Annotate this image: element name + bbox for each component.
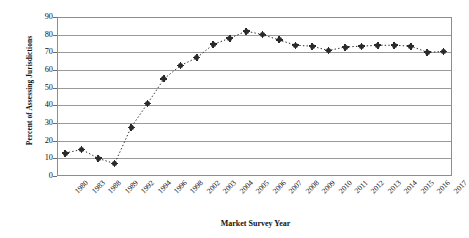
x-axis-tick-label: 2011: [353, 179, 369, 195]
x-axis-tick-label: 2002: [205, 179, 221, 195]
x-axis-tick-label: 2013: [386, 179, 402, 195]
x-axis-tick-label: 2015: [419, 179, 435, 195]
x-axis-tick-label: 2010: [337, 179, 353, 195]
x-axis-title: Market Survey Year: [0, 219, 469, 228]
chart-container: Percent of Assessing Jurisdictions 01020…: [0, 0, 469, 238]
x-axis-tick-label: 1998: [189, 179, 205, 195]
x-axis-tick-label: 1988: [107, 179, 123, 195]
x-axis-tick-label: 1996: [172, 179, 188, 195]
x-axis-tick-group: 1980198319881989199219941996199820022003…: [0, 0, 469, 238]
x-axis-tick-label: 2016: [436, 179, 452, 195]
x-axis-tick-label: 2014: [403, 179, 419, 195]
x-axis-tick-label: 2008: [304, 179, 320, 195]
x-axis-tick-label: 2007: [288, 179, 304, 195]
x-axis-tick-label: 2003: [222, 179, 238, 195]
x-axis-tick-label: 2012: [370, 179, 386, 195]
x-axis-tick-label: 2005: [255, 179, 271, 195]
x-axis-tick-label: 2017: [452, 179, 468, 195]
x-axis-tick-label: 1989: [123, 179, 139, 195]
x-axis-tick-label: 1980: [74, 179, 90, 195]
x-axis-tick-label: 2006: [271, 179, 287, 195]
x-axis-tick-label: 1994: [156, 179, 172, 195]
x-axis-tick-label: 2009: [321, 179, 337, 195]
x-axis-tick-label: 2004: [238, 179, 254, 195]
x-axis-tick-label: 1983: [90, 179, 106, 195]
x-axis-tick-label: 1992: [140, 179, 156, 195]
